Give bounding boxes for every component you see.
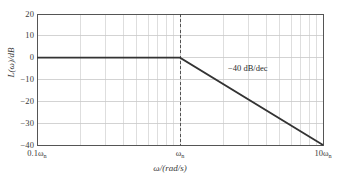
slope-annotation-label: −40 dB/dec	[228, 64, 268, 73]
x-tick-subscript: n	[181, 152, 184, 159]
bode-magnitude-figure: 20100−10−20−30−40 0.1ωnωn10ωn L(ω)/dB ω/…	[0, 0, 340, 182]
x-axis-tick-label: ωn	[176, 149, 185, 158]
x-axis-tick-label: 10ωn	[314, 149, 331, 158]
x-tick-base: ω	[176, 148, 182, 158]
x-axis-tick-label-layer: 0.1ωnωn10ωn	[0, 0, 340, 182]
y-axis-title: L(ω)/dB	[7, 31, 16, 95]
x-tick-base: 10ω	[314, 148, 328, 158]
x-axis-title: ω/(rad/s)	[0, 164, 340, 173]
x-axis-tick-label: 0.1ωn	[27, 149, 46, 158]
x-tick-subscript: n	[329, 152, 332, 159]
x-tick-base: 0.1ω	[27, 148, 43, 158]
x-tick-subscript: n	[44, 152, 47, 159]
